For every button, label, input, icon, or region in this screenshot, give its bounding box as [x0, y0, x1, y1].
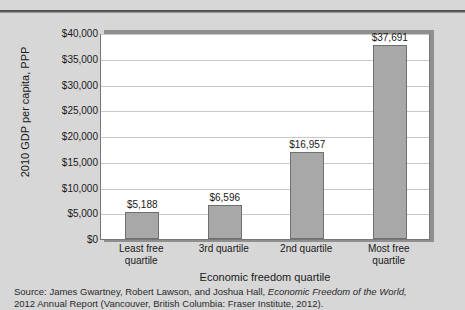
x-axis-tick-label: 3rd quartile: [179, 243, 269, 255]
bar: [290, 152, 324, 239]
bar-value-label: $16,957: [262, 139, 352, 150]
page-top-rule: [0, 10, 465, 13]
y-axis-tick-label: $25,000: [34, 105, 98, 116]
y-axis-tick-label: $0: [34, 234, 98, 245]
source-line-1-title: Economic Freedom of the World,: [268, 286, 407, 297]
y-axis-tick-labels: $40,000$35,000$30,000$25,000$20,000$15,0…: [30, 34, 98, 240]
x-axis-tick-label-line: 2nd quartile: [261, 243, 351, 255]
source-line-2: 2012 Annual Report (Vancouver, British C…: [14, 298, 459, 310]
bar: [373, 45, 407, 239]
x-axis-tick-label-line: quartile: [96, 255, 186, 267]
x-axis-tick-label-line: 3rd quartile: [179, 243, 269, 255]
y-axis-tick-label: $40,000: [34, 28, 98, 39]
x-axis-tick-label: Least freequartile: [96, 243, 186, 267]
x-axis-tick-labels: Least freequartile3rd quartile2nd quarti…: [100, 243, 430, 273]
bar-chart-figure: $40,000$35,000$30,000$25,000$20,000$15,0…: [0, 14, 465, 291]
x-axis-title: Economic freedom quartile: [100, 271, 430, 283]
y-axis-tick-label: $30,000: [34, 80, 98, 91]
x-axis-tick-label-line: Least free: [96, 243, 186, 255]
y-axis-tick-label: $35,000: [34, 54, 98, 65]
x-axis-tick-label-line: Most free: [344, 243, 434, 255]
y-axis-tick-label: $15,000: [34, 157, 98, 168]
plot-area: $5,188$6,596$16,957$37,691: [100, 34, 430, 240]
bar-value-label: $5,188: [97, 199, 187, 210]
x-axis-tick-label-line: quartile: [344, 255, 434, 267]
x-axis-tick-label: 2nd quartile: [261, 243, 351, 255]
bar: [125, 212, 159, 239]
y-axis-tick-label: $5,000: [34, 208, 98, 219]
bar-value-label: $37,691: [345, 32, 435, 43]
source-line-1-prefix: Source: James Gwartney, Robert Lawson, a…: [14, 286, 268, 297]
bar: [208, 205, 242, 239]
source-line-1: Source: James Gwartney, Robert Lawson, a…: [14, 286, 459, 298]
y-axis-title: 2010 GDP per capita, PPP: [19, 32, 31, 192]
y-axis-tick-label: $10,000: [34, 183, 98, 194]
source-note: Source: James Gwartney, Robert Lawson, a…: [14, 286, 459, 310]
y-axis-tick-label: $20,000: [34, 131, 98, 142]
bar-value-label: $6,596: [180, 192, 270, 203]
x-axis-tick-label: Most freequartile: [344, 243, 434, 267]
